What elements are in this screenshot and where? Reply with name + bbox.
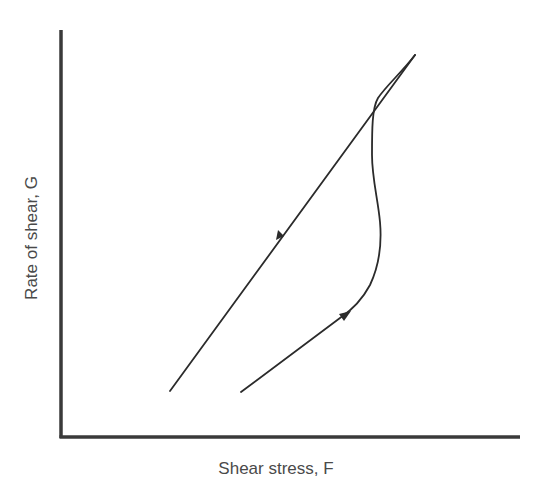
up-curve-line [241, 55, 415, 392]
rheogram-chart: Shear stress, F Rate of shear, G [0, 0, 543, 486]
y-axis-label: Rate of shear, G [22, 176, 41, 300]
arrow-down-left-icon [276, 230, 284, 240]
x-axis-label: Shear stress, F [218, 459, 333, 478]
arrow-up-right-icon [339, 311, 351, 321]
down-curve-line [170, 55, 415, 391]
